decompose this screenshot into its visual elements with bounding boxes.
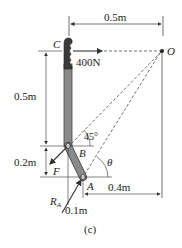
mechanics-diagram: 0.5m O C 400N B A 45° θ F RA 0.5m <box>0 0 182 248</box>
angle-45-label: 45° <box>84 131 98 142</box>
label-a: A <box>86 180 94 192</box>
dimension-top-0.5m: 0.5m <box>69 11 163 36</box>
label-c: C <box>53 38 61 50</box>
dimension-label-0.1m: 0.1m <box>65 204 88 216</box>
dimension-left-0.2m: 0.2m <box>14 148 46 175</box>
dimension-label: 0.2m <box>14 156 37 168</box>
force-f-label: F <box>52 165 60 177</box>
force-ra-label: RA <box>49 195 62 209</box>
label-b: B <box>79 147 86 159</box>
point-o <box>160 49 164 53</box>
figure-caption: (c) <box>84 223 97 236</box>
angle-theta-label: θ <box>107 156 113 168</box>
label-o: O <box>167 45 175 57</box>
bar-cb <box>64 64 72 146</box>
dimension-label: 0.4m <box>108 181 131 193</box>
dimension-left-0.5m: 0.5m <box>14 51 62 144</box>
dimension-label: 0.5m <box>14 90 37 102</box>
dashed-line-o-a <box>83 53 160 177</box>
force-400n-label: 400N <box>76 56 101 68</box>
dimension-bottom-0.4m: 0.4m <box>85 181 160 194</box>
dimension-label: 0.5m <box>104 11 127 23</box>
force-f-arrow <box>50 147 67 164</box>
